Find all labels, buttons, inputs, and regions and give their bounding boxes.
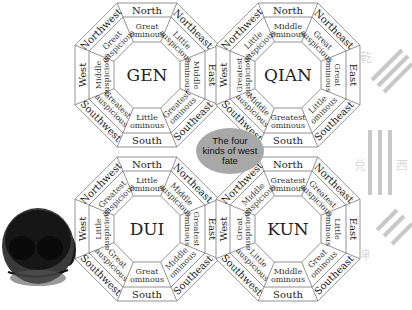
direction-label-west: West	[77, 63, 88, 88]
bagua-chart-kun: KUNNorthGreatestominousNortheastGreatest…	[216, 157, 360, 301]
direction-label-north: North	[132, 159, 163, 170]
fate-label-east: Greatestominous	[183, 212, 201, 248]
glyph-dui: 兑	[354, 159, 366, 173]
direction-label-south: South	[273, 289, 303, 300]
fate-label-south: Middleominous	[271, 267, 305, 285]
glyph-west: 西	[396, 159, 408, 173]
bagua-chart-gen: GENNorthGreatominousNortheastLittleauspi…	[75, 3, 219, 147]
direction-label-north: North	[132, 5, 163, 16]
fate-label-north: Middleominous	[271, 22, 305, 40]
trigram-decorations: 乾 兑 西 坤	[352, 20, 412, 290]
direction-label-south: South	[132, 289, 162, 300]
title-bubble: The four kinds of west fate	[196, 128, 264, 174]
fate-label-east: Middleominous	[183, 58, 201, 92]
chart-name: KUN	[267, 219, 308, 239]
direction-label-south: South	[132, 135, 162, 146]
glyph-kun: 坤	[358, 248, 370, 263]
glyph-qian: 乾	[360, 51, 372, 65]
fate-label-south: Greatestominous	[271, 113, 307, 131]
direction-label-west: West	[218, 63, 229, 88]
title-line-3: fate	[222, 156, 238, 166]
diagram: GENNorthGreatominousNortheastLittleauspi…	[0, 0, 412, 310]
bagua-chart-dui: DUINorthLittleominousNortheastMiddleausp…	[75, 157, 219, 301]
bagua-chart-qian: QIANNorthMiddleominousNortheastGreatausp…	[216, 3, 360, 147]
direction-label-north: North	[273, 159, 304, 170]
mascot-image	[0, 200, 80, 299]
direction-label-west: West	[218, 217, 229, 242]
direction-label-north: North	[273, 5, 304, 16]
chart-name: DUI	[130, 219, 165, 239]
chart-name: GEN	[127, 65, 168, 85]
direction-label-south: South	[273, 135, 303, 146]
chart-name: QIAN	[264, 65, 312, 85]
